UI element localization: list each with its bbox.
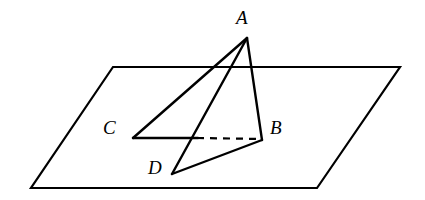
vertex-label-B: B [270, 118, 282, 137]
geometry-figure: A B C D [0, 0, 425, 200]
plane-polygon [31, 67, 400, 188]
vertex-label-C: C [103, 118, 116, 137]
vertex-label-D: D [148, 158, 162, 177]
vertex-label-A: A [236, 8, 248, 27]
geometry-canvas [0, 0, 425, 200]
